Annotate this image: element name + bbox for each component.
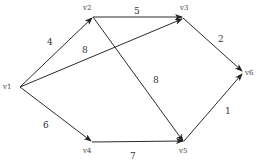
weight-v2-v5: 8 bbox=[153, 75, 159, 85]
weight-v5-v6: 1 bbox=[225, 106, 231, 116]
weight-v3-v6: 2 bbox=[218, 34, 224, 44]
edge-v2-v5 bbox=[93, 17, 183, 141]
weight-v1-v4: 6 bbox=[43, 120, 49, 130]
node-v1: v1 bbox=[2, 83, 11, 91]
node-v6: v6 bbox=[244, 69, 254, 77]
edge-v4-v5 bbox=[92, 141, 183, 142]
node-v3: v3 bbox=[179, 4, 188, 12]
node-v5: v5 bbox=[178, 147, 187, 155]
edge-v3-v6 bbox=[183, 18, 242, 71]
weight-v4-v5: 7 bbox=[130, 151, 136, 161]
node-v2: v2 bbox=[82, 4, 91, 12]
edge-v1-v4 bbox=[20, 87, 91, 141]
graph-diagram: 4 8 6 5 8 2 7 1 v1 v2 v3 v4 v5 v6 bbox=[0, 0, 257, 167]
weight-v2-v3: 5 bbox=[134, 6, 140, 16]
node-v4: v4 bbox=[82, 147, 92, 155]
edge-v5-v6 bbox=[184, 74, 242, 141]
weight-v1-v2: 4 bbox=[47, 37, 53, 47]
weight-v1-v3: 8 bbox=[82, 45, 88, 55]
